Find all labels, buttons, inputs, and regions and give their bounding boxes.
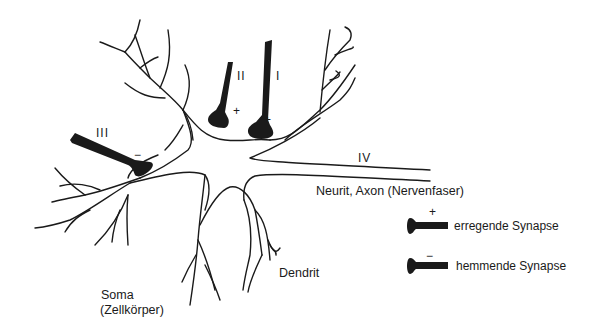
neuron-diagram: [0, 0, 611, 331]
legend-icon-excitatory: [407, 218, 448, 234]
synapse-label-IV: IV: [358, 151, 371, 165]
sign-plus-I: +: [264, 113, 271, 127]
sign-plus-II: +: [233, 104, 240, 118]
legend-sign-plus: +: [429, 205, 436, 219]
label-soma: Soma: [101, 288, 134, 303]
dendrite-lower: [182, 175, 280, 305]
synapse-II: [208, 62, 233, 128]
label-dendrit: Dendrit: [279, 266, 319, 281]
synapse-label-II: II: [237, 69, 246, 83]
legend-sign-minus: −: [426, 249, 433, 263]
label-axon: Neurit, Axon (Nervenfaser): [316, 184, 464, 199]
dendrite-left: [35, 125, 183, 245]
legend-label-excitatory: erregende Synapse: [454, 219, 559, 234]
dendrite-upper-left: [100, 20, 193, 140]
synapse-label-I: I: [276, 69, 280, 83]
dendrite-upper-right: [285, 27, 355, 140]
legend-label-inhibitory: hemmende Synapse: [456, 259, 566, 274]
synapse-label-III: III: [96, 126, 109, 140]
sign-minus-III: −: [134, 148, 141, 162]
label-soma-sub: (Zellkörper): [100, 303, 164, 318]
